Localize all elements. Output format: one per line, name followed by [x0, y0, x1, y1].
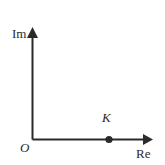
- point-k-marker-icon: [105, 136, 112, 143]
- point-k-label: K: [102, 111, 111, 124]
- real-axis-arrowhead-icon: [143, 134, 153, 145]
- origin-label: O: [20, 141, 29, 154]
- complex-plane-diagram: Im Re O K: [0, 0, 165, 165]
- real-axis-label: Re: [136, 147, 150, 160]
- imaginary-axis-arrowhead-icon: [27, 27, 38, 38]
- imaginary-axis-label: Im: [12, 27, 26, 40]
